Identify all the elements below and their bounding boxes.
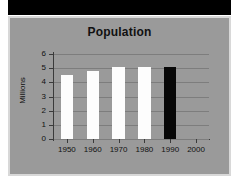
y-tick-label: 3 [30,93,46,101]
bar [138,67,150,139]
y-axis-label: Millions [18,65,27,117]
y-tick-label: 0 [30,135,46,143]
x-tick-mark [196,139,197,143]
x-tick-mark [170,139,171,143]
x-tick-mark [144,139,145,143]
x-tick-mark [119,139,120,143]
x-tick-mark [93,139,94,143]
gridline [54,68,209,69]
gridline [54,54,209,55]
screenshot-root: Population Millions 0123456 195019601970… [0,0,239,185]
x-tick-label: 2000 [179,146,213,154]
y-tick-label: 1 [30,121,46,129]
gridline [54,139,209,140]
gridline [54,97,209,98]
chart-canvas: Population Millions 0123456 195019601970… [10,18,229,174]
plot-area [54,54,209,139]
bar [61,75,73,139]
gridline [54,125,209,126]
y-tick-label: 4 [30,78,46,86]
y-tick-label: 6 [30,50,46,58]
chart-image-frame: Population Millions 0123456 195019601970… [8,16,231,176]
bar [112,67,124,139]
y-tick-label: 2 [30,107,46,115]
gridline [54,111,209,112]
y-tick-label: 5 [30,64,46,72]
bar [87,71,99,139]
bar [164,67,176,139]
gridline [54,82,209,83]
bottom-white-strip [0,178,239,185]
chart-title: Population [10,25,229,39]
top-black-band [8,0,231,15]
x-tick-mark [67,139,68,143]
